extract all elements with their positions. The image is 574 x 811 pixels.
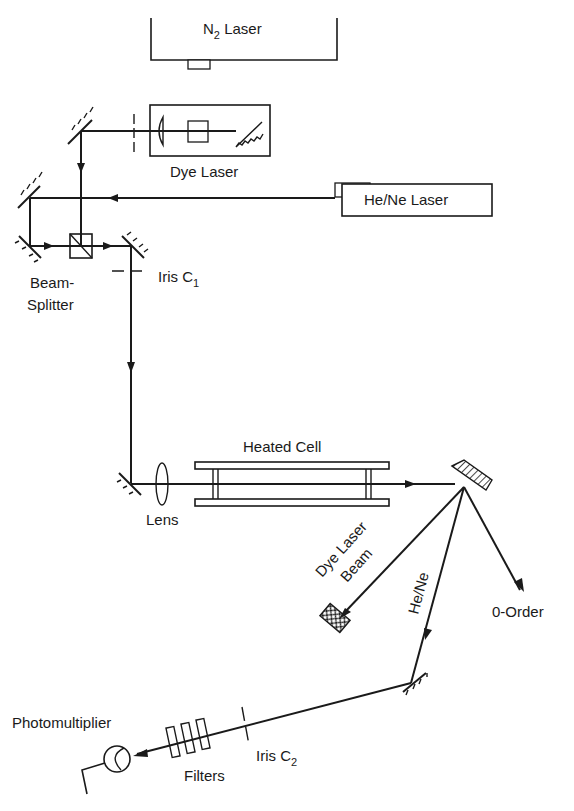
dye-laser-label: Dye Laser: [170, 163, 238, 180]
heated-cell-label: Heated Cell: [243, 438, 321, 455]
beam-dump-icon: [320, 604, 350, 633]
svg-text:Splitter: Splitter: [27, 296, 74, 313]
optical-setup-diagram: N2 Laser Dye Laser He/Ne Laser: [0, 0, 574, 811]
iris-c2-label: Iris C2: [256, 747, 297, 768]
mirror-left-bottom: [15, 236, 41, 262]
n2-laser: N2 Laser: [151, 18, 337, 69]
beam-splitter-label: Beam-: [30, 274, 74, 291]
photomultiplier-label: Photomultiplier: [12, 714, 111, 731]
grating-icon: [236, 122, 263, 147]
photomultiplier-icon: [104, 746, 130, 772]
arrow-icon: [77, 163, 85, 173]
filters: Filters: [166, 718, 225, 784]
arrow-icon: [127, 362, 135, 373]
hene-laser: He/Ne Laser: [335, 183, 492, 216]
hene-beam-label: He/Ne: [404, 570, 431, 615]
n2-laser-label: N2 Laser: [203, 20, 262, 41]
arrow-icon: [133, 749, 148, 757]
arrow-icon: [44, 242, 54, 250]
heated-cell: Heated Cell: [195, 438, 389, 506]
dye-laser: Dye Laser: [150, 105, 270, 180]
iris-c1-label: Iris C1: [158, 268, 199, 289]
arrow-icon: [103, 242, 113, 250]
filters-label: Filters: [184, 767, 225, 784]
hene-laser-label: He/Ne Laser: [364, 191, 448, 208]
arrow-icon: [424, 628, 432, 640]
photomultiplier: Photomultiplier: [12, 714, 130, 794]
beam-to-detector: [137, 683, 411, 754]
zero-order-beam: [464, 487, 520, 590]
lens-label: Lens: [146, 511, 179, 528]
arrow-icon: [405, 480, 416, 488]
zero-order-label: 0-Order: [492, 603, 544, 620]
grating: [452, 460, 492, 490]
arrow-icon: [108, 194, 118, 202]
grating-icon: [452, 460, 492, 490]
